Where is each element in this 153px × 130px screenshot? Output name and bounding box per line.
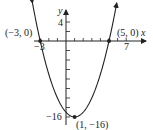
point-label-right: (5, 0) — [117, 27, 139, 39]
tick-label-neg3: −3 — [34, 41, 45, 52]
parabola-curve — [32, 3, 116, 117]
point-label-vertex: (1, −16) — [76, 119, 108, 130]
tick-label-4: 4 — [58, 17, 63, 28]
y-ticks — [66, 22, 70, 117]
y-axis-label: y — [57, 5, 63, 16]
parabola-chart: x y −3 7 4 −16 (−3, 0) (5, 0) (1, −16) — [0, 0, 153, 130]
x-axis-label: x — [140, 27, 146, 38]
point-right-intercept — [107, 39, 111, 43]
tick-label-neg16: −16 — [46, 111, 62, 122]
point-label-left: (−3, 0) — [5, 27, 32, 39]
tick-label-7: 7 — [124, 41, 129, 52]
